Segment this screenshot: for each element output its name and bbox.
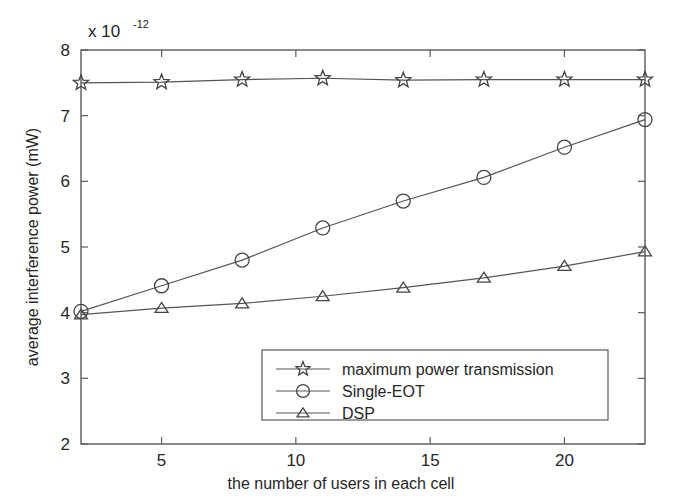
y-axis-multiplier-exponent: -12: [133, 18, 149, 30]
legend-label: maximum power transmission: [342, 361, 554, 378]
x-tick-label: 5: [157, 451, 166, 470]
y-tick-label: 5: [61, 238, 70, 257]
interference-power-line-chart: x 10 -12 2345678 5101520 the number of u…: [0, 0, 682, 503]
figure-container: x 10 -12 2345678 5101520 the number of u…: [0, 0, 682, 503]
legend[interactable]: maximum power transmissionSingle-EOTDSP: [262, 350, 608, 422]
y-tick-label: 2: [61, 435, 70, 454]
legend-label: Single-EOT: [342, 383, 425, 400]
y-tick-label: 7: [61, 107, 70, 126]
chart-background: [0, 0, 682, 503]
y-axis-title: average interference power (mW): [24, 128, 41, 366]
x-tick-label: 15: [421, 451, 440, 470]
x-tick-label: 20: [555, 451, 574, 470]
y-tick-label: 6: [61, 172, 70, 191]
y-tick-label: 4: [61, 304, 70, 323]
legend-label: DSP: [342, 405, 375, 422]
y-tick-label: 8: [61, 41, 70, 60]
y-tick-label: 3: [61, 369, 70, 388]
x-tick-label: 10: [286, 451, 305, 470]
x-axis-title: the number of users in each cell: [228, 475, 455, 492]
y-axis-multiplier-text: x 10: [88, 22, 120, 41]
